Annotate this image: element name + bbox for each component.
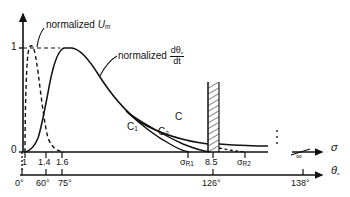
sigma-axis-label: σ [331, 142, 338, 153]
curve-c-text: C [175, 111, 182, 122]
um-leader [37, 28, 44, 47]
curve-c2-sub: 2 [165, 130, 169, 137]
um-symbol: U [98, 19, 105, 30]
break-dot-2 [276, 136, 278, 138]
sigma-tick-label-r2: σR2 [237, 158, 251, 168]
sigma-tick-label-1p6: 1.6 [56, 158, 69, 167]
y-tick-label-0: 0 [11, 145, 17, 155]
curve-c2 [128, 113, 210, 152]
theta-tick-label-138: 138° [291, 179, 310, 188]
sigma-tick-label-1: 1 [22, 158, 27, 167]
curve-label-c: C [175, 112, 182, 122]
theta-axis-label: θₒ [331, 165, 340, 177]
curve-label-c2: C2 [158, 127, 169, 138]
curve-c-right [219, 144, 268, 146]
theta-sub: ₒ [337, 169, 340, 176]
curve-label-c1: C1 [127, 122, 138, 133]
theta-tick-label-75: 75° [58, 179, 72, 188]
sigma-r1-sub: R1 [186, 160, 194, 167]
dtheta-text: normalized [118, 50, 167, 61]
theta-tick-label-126: 126° [202, 179, 221, 188]
theta-tick-label-60: 60° [36, 179, 50, 188]
dtheta-leader [100, 56, 117, 76]
um-text: normalized [46, 19, 95, 30]
sigma-r2-sub: R2 [243, 160, 251, 167]
sigma-tick-label-1p4: 1.4 [38, 158, 51, 167]
dtheta-fraction: dθₒ dt [170, 46, 184, 66]
um-subscript: m [105, 23, 110, 30]
sigma-tick-label-8p5: 8.5 [205, 158, 218, 167]
annotation-normalized-um: normalized Um [46, 20, 110, 31]
forbidden-band [208, 82, 219, 152]
break-dot-3 [276, 142, 278, 144]
break-dot-1 [276, 130, 278, 132]
fraction-denominator: dt [170, 57, 184, 66]
y-tick-label-1: 1 [11, 42, 17, 52]
annotation-normalized-dtheta: normalized dθₒ dt [118, 46, 184, 66]
figure-container: normalized Um normalized dθₒ dt C C1 C2 … [0, 0, 350, 197]
curve-um [25, 46, 64, 152]
curve-c1-sub: 1 [134, 125, 138, 132]
theta-tick-label-0: 0° [15, 179, 24, 188]
fraction-numerator: dθₒ [170, 46, 184, 57]
sigma-tick-label-r1: σR1 [180, 158, 194, 168]
infinity-label: ∞ [296, 153, 302, 161]
